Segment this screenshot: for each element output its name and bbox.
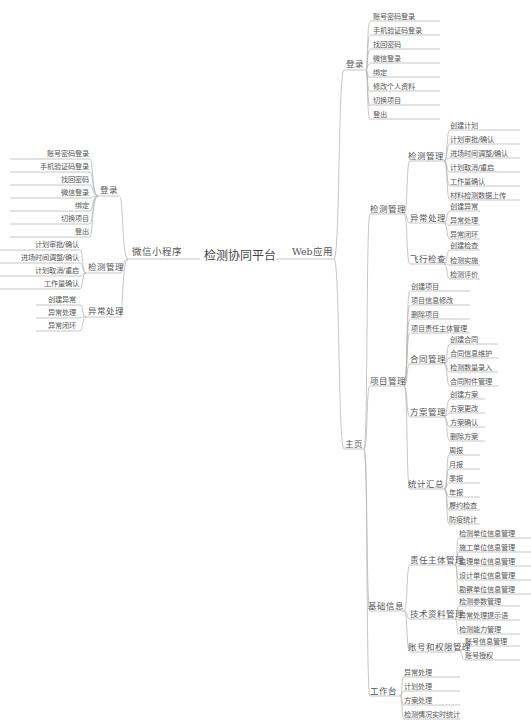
leaf[interactable]: 登出	[373, 110, 387, 119]
leaf[interactable]: 施工单位信息管理	[459, 543, 515, 552]
node-inspection-sub[interactable]: 检测管理	[408, 152, 444, 161]
leaf[interactable]: 找回密码	[373, 40, 401, 49]
node-inspection-mgmt[interactable]: 检测管理	[370, 205, 406, 214]
node-left-exception[interactable]: 异常处理	[88, 307, 124, 316]
leaf[interactable]: 进场时间调整/确认	[21, 253, 79, 262]
leaf[interactable]: 微信登录	[61, 188, 89, 197]
leaf[interactable]: 计划审批/确认	[35, 240, 79, 249]
leaf[interactable]: 检测评价	[450, 270, 478, 279]
leaf[interactable]: 异常处理	[450, 216, 478, 225]
leaf[interactable]: 异常闭环	[48, 321, 76, 330]
leaf[interactable]: 监理单位信息管理	[459, 557, 515, 566]
leaf[interactable]: 履约检查	[449, 501, 477, 510]
leaf[interactable]: 检测能力管理	[459, 625, 501, 634]
leaf[interactable]: 异常闭环	[450, 230, 478, 239]
leaf[interactable]: 材料检测数据上传	[450, 191, 506, 200]
leaf[interactable]: 计划取消/重启	[450, 163, 494, 172]
leaf[interactable]: 合同信息维护	[450, 349, 492, 358]
leaf[interactable]: 删除方案	[450, 432, 478, 441]
leaf[interactable]: 创建方案	[450, 390, 478, 399]
node-project-mgmt[interactable]: 项目管理	[370, 377, 406, 386]
leaf[interactable]: 创建异常	[450, 202, 478, 211]
node-tech-docs[interactable]: 技术资料管理	[410, 610, 464, 619]
leaf[interactable]: 项目责任主体管理	[411, 324, 467, 333]
mind-map-canvas: 检测协同平台 微信小程序 Web应用 登录 账号密码登录 手机验证码登录 找回密…	[0, 0, 531, 728]
node-workbench[interactable]: 工作台	[370, 687, 397, 696]
leaf[interactable]: 工作量确认	[44, 279, 79, 288]
leaf[interactable]: 登出	[75, 227, 89, 236]
leaf[interactable]: 方案确认	[450, 418, 478, 427]
leaf[interactable]: 检测单位信息管理	[459, 529, 515, 538]
leaf[interactable]: 异常处理	[404, 668, 432, 677]
node-basic-info[interactable]: 基础信息	[368, 602, 404, 611]
leaf[interactable]: 账号密码登录	[373, 12, 415, 21]
leaf[interactable]: 合同附件管理	[450, 377, 492, 386]
leaf[interactable]: 计划处理	[404, 682, 432, 691]
leaf[interactable]: 防疫统计	[449, 515, 477, 524]
leaf[interactable]: 手机验证码登录	[373, 26, 422, 35]
leaf[interactable]: 检测实施	[450, 256, 478, 265]
leaf[interactable]: 切换项目	[61, 214, 89, 223]
node-exception[interactable]: 异常处理	[410, 214, 446, 223]
leaf[interactable]: 季报	[449, 474, 463, 483]
leaf[interactable]: 创建异常	[48, 295, 76, 304]
leaf[interactable]: 微信登录	[373, 54, 401, 63]
leaf[interactable]: 账号密码登录	[47, 149, 89, 158]
leaf[interactable]: 工作量确认	[450, 177, 485, 186]
leaf[interactable]: 计划审批/确认	[450, 135, 494, 144]
leaf[interactable]: 勘察单位信息管理	[459, 585, 515, 594]
node-left-inspection[interactable]: 检测管理	[88, 263, 124, 272]
leaf[interactable]: 创建计划	[450, 121, 478, 130]
leaf[interactable]: 删除项目	[411, 310, 439, 319]
leaf[interactable]: 手机验证码登录	[40, 162, 89, 171]
node-flight-check[interactable]: 飞行检查	[410, 255, 446, 264]
leaf[interactable]: 账号授权	[465, 651, 493, 660]
leaf[interactable]: 绑定	[75, 201, 89, 210]
leaf[interactable]: 进场时间调整/确认	[450, 149, 508, 158]
leaf[interactable]: 周报	[449, 446, 463, 455]
leaf[interactable]: 计划取消/重启	[35, 266, 79, 275]
leaf[interactable]: 异常处理	[48, 308, 76, 317]
leaf[interactable]: 创建检查	[450, 241, 478, 250]
leaf[interactable]: 创建合同	[450, 335, 478, 344]
leaf[interactable]: 绑定	[373, 68, 387, 77]
leaf[interactable]: 方案处理	[404, 696, 432, 705]
leaf[interactable]: 账号信息管理	[465, 637, 507, 646]
leaf[interactable]: 检测数量录入	[450, 363, 492, 372]
node-web-app[interactable]: Web应用	[292, 247, 333, 256]
leaf[interactable]: 年报	[449, 488, 463, 497]
node-responsible-party[interactable]: 责任主体管理	[410, 556, 464, 565]
leaf[interactable]: 异常处理提示语	[459, 611, 508, 620]
root-node[interactable]: 检测协同平台	[204, 252, 276, 261]
leaf[interactable]: 方案更改	[450, 404, 478, 413]
leaf[interactable]: 创建项目	[411, 282, 439, 291]
node-plan-mgmt[interactable]: 方案管理	[410, 408, 446, 417]
leaf[interactable]: 设计单位信息管理	[459, 571, 515, 580]
node-web-login[interactable]: 登录	[346, 60, 364, 69]
node-contract-mgmt[interactable]: 合同管理	[410, 355, 446, 364]
leaf[interactable]: 找回密码	[61, 175, 89, 184]
leaf[interactable]: 修改个人资料	[373, 82, 415, 91]
node-account-perms[interactable]: 账号和权限管理	[408, 643, 471, 652]
node-wechat-miniprogram[interactable]: 微信小程序	[132, 247, 182, 256]
node-home[interactable]: 主页	[345, 440, 363, 449]
leaf[interactable]: 检测情况实时统计	[404, 710, 460, 719]
leaf[interactable]: 切换项目	[373, 96, 401, 105]
leaf[interactable]: 项目信息修改	[411, 296, 453, 305]
leaf[interactable]: 月报	[449, 460, 463, 469]
leaf[interactable]: 检测参数管理	[459, 597, 501, 606]
node-statistics[interactable]: 统计汇总	[408, 480, 444, 489]
node-left-login[interactable]: 登录	[100, 186, 118, 195]
